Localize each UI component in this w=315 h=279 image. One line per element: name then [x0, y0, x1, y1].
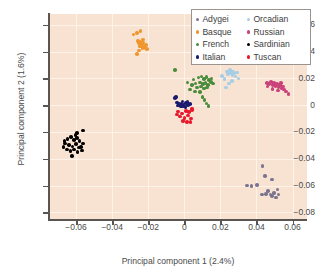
legend-item-orcadian[interactable]: Orcadian: [247, 14, 309, 24]
data-point-sardinian: [76, 150, 80, 154]
data-point-adygei: [272, 191, 276, 195]
y-tick-mark: [43, 52, 49, 54]
y-axis-label: Principal component 2 (1.6%): [16, 34, 26, 184]
legend-item-italian[interactable]: Italian: [196, 52, 247, 62]
data-point-tuscan: [175, 113, 179, 117]
data-point-french: [193, 90, 197, 94]
legend-label: Italian: [202, 52, 225, 62]
legend-item-sardinian[interactable]: Sardinian: [247, 39, 309, 49]
y-axis-line: [48, 13, 50, 220]
data-point-french: [192, 78, 196, 82]
legend-label: Basque: [202, 27, 231, 37]
y-tick-label: −0.08: [273, 208, 315, 217]
legend-label: French: [202, 39, 229, 49]
data-point-adygei: [245, 184, 249, 188]
data-point-sardinian: [81, 142, 85, 146]
data-point-basque: [145, 47, 149, 51]
data-point-adygei: [250, 184, 254, 188]
y-tick-mark: [43, 159, 49, 161]
data-point-french: [211, 82, 215, 86]
y-tick-label: −0.06: [273, 181, 315, 190]
legend-item-basque[interactable]: Basque: [196, 27, 247, 37]
y-tick-label: −0.02: [273, 127, 315, 136]
data-point-basque: [141, 38, 145, 42]
gridline-vertical: [76, 14, 77, 219]
data-point-italian: [174, 95, 178, 99]
y-tick-mark: [43, 132, 49, 134]
legend-marker-icon: [196, 55, 199, 58]
gridline-horizontal: [49, 212, 307, 213]
data-point-russian: [287, 92, 291, 96]
legend-item-russian[interactable]: Russian: [247, 27, 309, 37]
data-point-orcadian: [223, 77, 227, 81]
legend-marker-icon: [247, 30, 250, 33]
y-tick-label: −0.04: [273, 154, 315, 163]
data-point-tuscan: [189, 120, 193, 124]
legend-label: Orcadian: [253, 14, 288, 24]
data-point-sardinian: [80, 149, 84, 153]
data-point-french: [186, 81, 190, 85]
y-tick-mark: [43, 25, 49, 27]
legend-label: Tuscan: [253, 52, 281, 62]
data-point-adygei: [255, 183, 259, 187]
data-point-tuscan: [190, 107, 194, 111]
x-tick-label: 0.02: [200, 223, 240, 232]
legend: AdygeiOrcadianBasqueRussianFrenchSardini…: [191, 9, 311, 65]
data-point-adygei: [277, 193, 281, 197]
legend-label: Sardinian: [253, 39, 289, 49]
y-tick-label: 0.02: [273, 74, 315, 83]
x-tick-label: 0: [164, 223, 204, 232]
gridline-horizontal: [49, 78, 307, 79]
legend-marker-icon: [196, 18, 199, 21]
data-point-basque: [139, 29, 143, 33]
data-point-tuscan: [181, 119, 185, 123]
legend-marker-icon: [196, 43, 199, 46]
gridline-vertical: [148, 14, 149, 219]
legend-marker-icon: [196, 30, 199, 33]
x-tick-label: −0.02: [128, 223, 168, 232]
x-tick-label: 0.06: [273, 223, 313, 232]
data-point-french: [207, 104, 211, 108]
data-point-french: [198, 90, 202, 94]
y-tick-mark: [43, 78, 49, 80]
gridline-horizontal: [49, 186, 307, 187]
data-point-adygei: [263, 174, 267, 178]
legend-label: Russian: [253, 27, 284, 37]
legend-marker-icon: [247, 18, 250, 21]
x-tick-label: −0.06: [56, 223, 96, 232]
gridline-horizontal: [49, 159, 307, 160]
data-point-adygei: [261, 164, 265, 168]
data-point-orcadian: [237, 77, 241, 81]
legend-grid: AdygeiOrcadianBasqueRussianFrenchSardini…: [196, 13, 306, 63]
data-point-adygei: [274, 196, 278, 200]
data-point-basque: [144, 43, 148, 47]
x-tick-label: 0.04: [236, 223, 276, 232]
data-point-sardinian: [70, 154, 74, 158]
legend-marker-icon: [247, 43, 250, 46]
x-axis-label: Principal component 1 (2.4%): [49, 256, 307, 266]
data-point-russian: [271, 87, 275, 91]
data-point-french: [173, 68, 177, 72]
legend-item-tuscan[interactable]: Tuscan: [247, 52, 309, 62]
data-point-french: [188, 88, 192, 92]
data-point-orcadian: [224, 86, 228, 90]
scatter-plot-figure: 0.060.040.020−0.02−0.04−0.06−0.08 −0.06−…: [0, 0, 315, 279]
data-point-sardinian: [81, 129, 85, 133]
data-point-french: [194, 82, 198, 86]
data-point-italian: [184, 105, 188, 109]
gridline-horizontal: [49, 132, 307, 133]
x-axis-line: [48, 219, 307, 221]
x-tick-label: −0.04: [92, 223, 132, 232]
y-tick-mark: [43, 186, 49, 188]
y-tick-mark: [43, 105, 49, 107]
data-point-basque: [135, 52, 139, 56]
data-point-orcadian: [235, 71, 239, 75]
gridline-vertical: [112, 14, 113, 219]
legend-item-french[interactable]: French: [196, 39, 247, 49]
legend-item-adygei[interactable]: Adygei: [196, 14, 247, 24]
legend-label: Adygei: [202, 14, 228, 24]
y-tick-label: 0: [273, 101, 315, 110]
y-tick-mark: [43, 212, 49, 214]
data-point-orcadian: [227, 82, 231, 86]
data-point-sardinian: [74, 133, 78, 137]
